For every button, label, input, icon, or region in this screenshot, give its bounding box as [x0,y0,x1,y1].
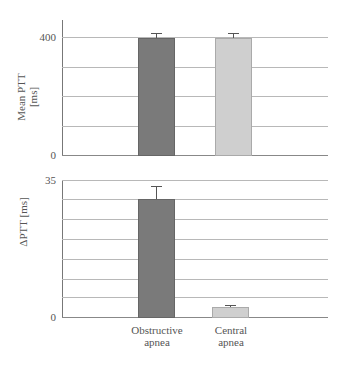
error-cap-central-delta [225,305,236,306]
error-cap-obstructive-delta [151,186,162,187]
gridline-5 [62,297,328,298]
x-label-obstructive-apnea: Obstructive apnea [117,324,197,348]
gridline-15 [62,259,328,260]
x-axis-delta [62,317,328,318]
y-tick-35: 35 [26,174,56,186]
delta-ptt-chart: ΔPTT [ms] 35 0 Obstructive apnea Central… [0,0,345,366]
bar-central-apnea-delta [212,307,249,318]
gridline-25 [62,219,328,220]
y-axis-label-delta-ptt: ΔPTT [ms] [17,187,29,257]
error-bar-obstructive-delta [156,186,157,199]
y-tick-0-delta: 0 [26,311,56,323]
x-label-central-apnea: Central apnea [191,324,271,348]
gridline-30 [62,199,328,200]
gridline-10 [62,279,328,280]
gridline-20 [62,239,328,240]
bar-obstructive-apnea-delta [138,199,175,318]
gridline-35 [62,180,328,181]
